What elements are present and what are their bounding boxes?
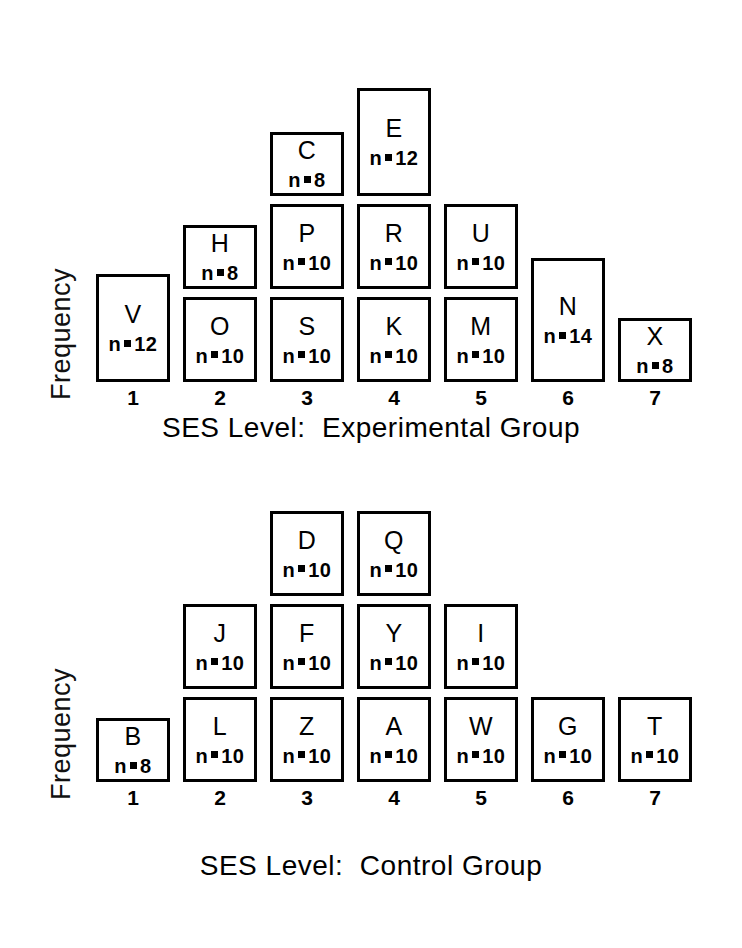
n-value: 10 — [395, 253, 418, 273]
group-sample-size: n10 — [196, 346, 245, 366]
group-letter: K — [385, 314, 402, 339]
y-axis-label-control: Frequency — [46, 668, 77, 800]
equals-mark-icon — [211, 351, 218, 358]
group-sample-size: n8 — [636, 356, 673, 376]
group-box-W: Wn10 — [444, 697, 518, 782]
equals-mark-icon — [385, 154, 392, 161]
group-sample-size: n10 — [631, 746, 680, 766]
x-tick-7: 7 — [618, 786, 692, 810]
x-tick-1: 1 — [96, 786, 170, 810]
x-tick-4: 4 — [357, 786, 431, 810]
equals-mark-icon — [130, 762, 137, 769]
x-tick-4: 4 — [357, 386, 431, 410]
group-sample-size: n10 — [457, 253, 506, 273]
group-sample-size: n10 — [457, 653, 506, 673]
group-sample-size: n10 — [457, 346, 506, 366]
equals-mark-icon — [559, 332, 566, 339]
n-value: 8 — [662, 356, 674, 376]
group-sample-size: n10 — [283, 253, 332, 273]
n-value: 10 — [221, 653, 244, 673]
n-prefix: n — [109, 334, 122, 354]
group-sample-size: n10 — [283, 560, 332, 580]
equals-mark-icon — [211, 751, 218, 758]
n-value: 10 — [395, 653, 418, 673]
x-axis-caption-experimental: SES Level: Experimental Group — [0, 412, 742, 444]
n-prefix: n — [196, 746, 209, 766]
panel-experimental: Frequency Vn12Hn8On10Cn8Pn10Sn10En12Rn10… — [0, 0, 742, 470]
n-value: 8 — [227, 263, 239, 283]
equals-mark-icon — [472, 751, 479, 758]
x-tick-labels-control: 1234567 — [96, 786, 716, 810]
group-letter: X — [646, 324, 663, 349]
x-axis-caption-control: SES Level: Control Group — [0, 850, 742, 882]
n-value: 10 — [308, 746, 331, 766]
n-prefix: n — [370, 746, 383, 766]
group-letter: Z — [299, 714, 315, 739]
group-box-S: Sn10 — [270, 297, 344, 382]
ses-column-2: Jn10Ln10 — [183, 604, 257, 782]
figure-root: Frequency Vn12Hn8On10Cn8Pn10Sn10En12Rn10… — [0, 0, 742, 948]
n-value: 10 — [482, 253, 505, 273]
equals-mark-icon — [298, 658, 305, 665]
ses-column-2: Hn8On10 — [183, 225, 257, 382]
n-prefix: n — [283, 746, 296, 766]
x-tick-2: 2 — [183, 386, 257, 410]
group-box-G: Gn10 — [531, 697, 605, 782]
group-box-K: Kn10 — [357, 297, 431, 382]
equals-mark-icon — [211, 658, 218, 665]
n-prefix: n — [196, 653, 209, 673]
ses-column-4: Qn10Yn10An10 — [357, 511, 431, 782]
x-tick-3: 3 — [270, 786, 344, 810]
group-box-U: Un10 — [444, 204, 518, 289]
group-box-V: Vn12 — [96, 274, 170, 382]
x-tick-6: 6 — [531, 386, 605, 410]
n-prefix: n — [636, 356, 649, 376]
group-sample-size: n10 — [370, 346, 419, 366]
ses-column-6: Nn14 — [531, 258, 605, 382]
n-prefix: n — [370, 560, 383, 580]
group-box-E: En12 — [357, 88, 431, 196]
group-box-P: Pn10 — [270, 204, 344, 289]
n-value: 10 — [482, 653, 505, 673]
equals-mark-icon — [472, 258, 479, 265]
group-letter: N — [559, 294, 578, 319]
group-sample-size: n10 — [370, 746, 419, 766]
equals-mark-icon — [472, 658, 479, 665]
equals-mark-icon — [385, 258, 392, 265]
group-box-I: In10 — [444, 604, 518, 689]
group-sample-size: n10 — [283, 653, 332, 673]
n-value: 10 — [308, 653, 331, 673]
n-value: 10 — [395, 746, 418, 766]
equals-mark-icon — [298, 351, 305, 358]
group-letter: A — [385, 714, 402, 739]
group-box-T: Tn10 — [618, 697, 692, 782]
group-letter: E — [385, 116, 402, 141]
equals-mark-icon — [559, 751, 566, 758]
ses-column-7: Tn10 — [618, 697, 692, 782]
group-letter: Q — [384, 528, 404, 553]
group-letter: H — [211, 231, 230, 256]
group-letter: Y — [385, 621, 402, 646]
group-sample-size: n8 — [201, 263, 238, 283]
equals-mark-icon — [298, 565, 305, 572]
group-letter: U — [472, 221, 491, 246]
group-box-X: Xn8 — [618, 318, 692, 382]
group-sample-size: n10 — [283, 746, 332, 766]
equals-mark-icon — [385, 565, 392, 572]
group-sample-size: n12 — [370, 148, 419, 168]
n-prefix: n — [283, 560, 296, 580]
group-letter: C — [298, 138, 317, 163]
equals-mark-icon — [298, 751, 305, 758]
group-letter: B — [124, 724, 141, 749]
equals-mark-icon — [304, 176, 311, 183]
equals-mark-icon — [472, 351, 479, 358]
group-sample-size: n10 — [370, 253, 419, 273]
ses-column-3: Dn10Fn10Zn10 — [270, 511, 344, 782]
n-prefix: n — [196, 346, 209, 366]
n-prefix: n — [544, 746, 557, 766]
n-prefix: n — [283, 653, 296, 673]
group-letter: V — [124, 302, 141, 327]
x-tick-2: 2 — [183, 786, 257, 810]
n-value: 10 — [308, 560, 331, 580]
equals-mark-icon — [385, 658, 392, 665]
